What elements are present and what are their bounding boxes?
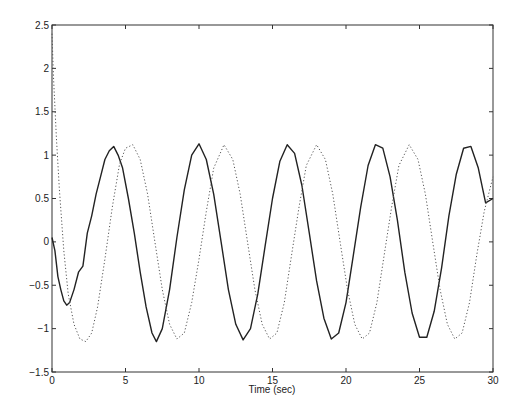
y-tick-label: 1 (43, 150, 49, 161)
x-tick-label: 10 (193, 375, 205, 386)
y-tick-label: −0.5 (29, 280, 49, 291)
x-tick-label: 0 (49, 375, 55, 386)
x-tick-label: 30 (487, 375, 499, 386)
y-tick-label: −1.5 (29, 367, 49, 378)
x-tick-label: 25 (414, 375, 426, 386)
line-chart: −1.5−1−0.500.511.522.5 051015202530 Time… (0, 0, 524, 415)
x-tick-label: 20 (340, 375, 352, 386)
y-tick-label: −1 (38, 323, 50, 334)
y-tick-label: 2 (43, 63, 49, 74)
y-tick-label: 1.5 (35, 106, 49, 117)
y-tick-label: 0.5 (35, 193, 49, 204)
y-tick-label: 2.5 (35, 20, 49, 31)
x-tick-label: 5 (123, 375, 129, 386)
y-tick-label: 0 (43, 236, 49, 247)
x-axis-label: Time (sec) (249, 384, 296, 395)
